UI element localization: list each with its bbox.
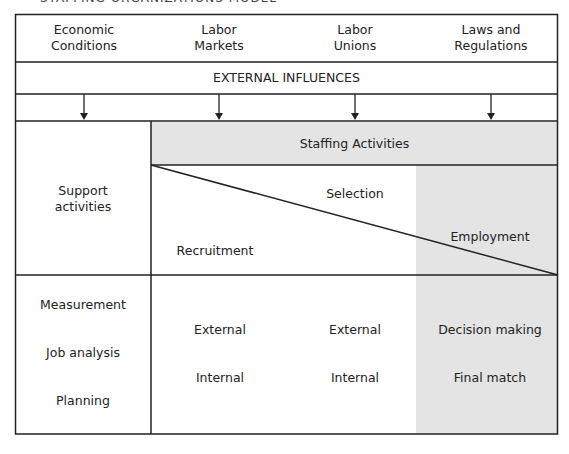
factor-labor-unions: Labor Unions [305, 22, 405, 54]
arrow-down-icon [487, 94, 495, 120]
factor-labor-markets: Labor Markets [169, 22, 269, 54]
stage-employment: Employment [435, 229, 545, 245]
stage-recruitment: Recruitment [160, 243, 270, 259]
staffing-activities-label: Staffing Activities [151, 136, 558, 152]
arrow-down-icon [80, 94, 88, 120]
arrow-down-icon [351, 94, 359, 120]
employment-final-match: Final match [425, 370, 555, 386]
recruitment-external: External [170, 322, 270, 338]
support-activities-label: Support activities [15, 183, 151, 215]
support-item-measurement: Measurement [15, 297, 151, 313]
employment-column-shade [416, 165, 558, 434]
factor-laws-regulations: Laws and Regulations [441, 22, 541, 54]
external-influences-label: EXTERNAL INFLUENCES [15, 70, 558, 86]
support-item-planning: Planning [15, 393, 151, 409]
stage-selection: Selection [300, 186, 410, 202]
selection-internal: Internal [305, 370, 405, 386]
recruitment-internal: Internal [170, 370, 270, 386]
factor-economic-conditions: Economic Conditions [34, 22, 134, 54]
selection-external: External [305, 322, 405, 338]
arrow-down-icon [215, 94, 223, 120]
support-item-job-analysis: Job analysis [15, 345, 151, 361]
employment-decision-making: Decision making [425, 322, 555, 338]
